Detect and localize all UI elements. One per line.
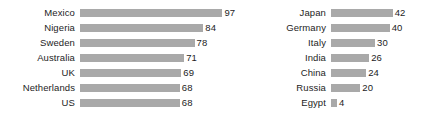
bar-row: Mexico97 xyxy=(0,7,240,19)
bar xyxy=(80,54,184,62)
bar xyxy=(331,99,337,107)
bar xyxy=(331,69,366,77)
chart-panel-right: Japan42Germany40Italy30India26China24Rus… xyxy=(255,0,427,122)
bar-row: Nigeria84 xyxy=(0,22,240,34)
bar-chart: Mexico97Nigeria84Sweden78Australia71UK69… xyxy=(0,0,427,122)
bar-row: China24 xyxy=(255,67,427,79)
bar-row: Australia71 xyxy=(0,52,240,64)
bar-row: UK69 xyxy=(0,67,240,79)
bar-value-label: 20 xyxy=(362,82,373,94)
category-label: Egypt xyxy=(255,97,326,109)
bar xyxy=(80,69,181,77)
bar-value-label: 24 xyxy=(368,67,379,79)
category-label: China xyxy=(255,67,326,79)
bar-value-label: 30 xyxy=(377,37,388,49)
bar xyxy=(80,9,222,17)
bar xyxy=(80,84,180,92)
bar-value-label: 97 xyxy=(224,7,235,19)
category-label: Mexico xyxy=(0,7,75,19)
bar-value-label: 71 xyxy=(186,52,197,64)
bar xyxy=(80,24,203,32)
bar-row: US68 xyxy=(0,97,240,109)
category-label: Sweden xyxy=(0,37,75,49)
category-label: Australia xyxy=(0,52,75,64)
category-label: Germany xyxy=(255,22,326,34)
bar-value-label: 78 xyxy=(197,37,208,49)
bar xyxy=(331,9,393,17)
category-label: Japan xyxy=(255,7,326,19)
category-label: Italy xyxy=(255,37,326,49)
bar-row: Russia20 xyxy=(255,82,427,94)
bar xyxy=(331,54,369,62)
bar-row: Japan42 xyxy=(255,7,427,19)
category-label: India xyxy=(255,52,326,64)
bar-row: Italy30 xyxy=(255,37,427,49)
bar-value-label: 69 xyxy=(183,67,194,79)
bar-value-label: 84 xyxy=(205,22,216,34)
bar-row: Egypt4 xyxy=(255,97,427,109)
bar-row: Germany40 xyxy=(255,22,427,34)
bar-row: Netherlands68 xyxy=(0,82,240,94)
bar-value-label: 68 xyxy=(182,82,193,94)
bar xyxy=(331,24,390,32)
bar xyxy=(331,39,375,47)
bar-value-label: 26 xyxy=(371,52,382,64)
bar-row: India26 xyxy=(255,52,427,64)
category-label: Russia xyxy=(255,82,326,94)
category-label: Netherlands xyxy=(0,82,75,94)
bar-row: Sweden78 xyxy=(0,37,240,49)
bar-value-label: 4 xyxy=(339,97,344,109)
bar-value-label: 68 xyxy=(182,97,193,109)
bar xyxy=(331,84,360,92)
category-label: US xyxy=(0,97,75,109)
bar xyxy=(80,99,180,107)
bar-value-label: 42 xyxy=(395,7,406,19)
bar-value-label: 40 xyxy=(392,22,403,34)
chart-panel-left: Mexico97Nigeria84Sweden78Australia71UK69… xyxy=(0,0,240,122)
category-label: UK xyxy=(0,67,75,79)
category-label: Nigeria xyxy=(0,22,75,34)
bar xyxy=(80,39,195,47)
